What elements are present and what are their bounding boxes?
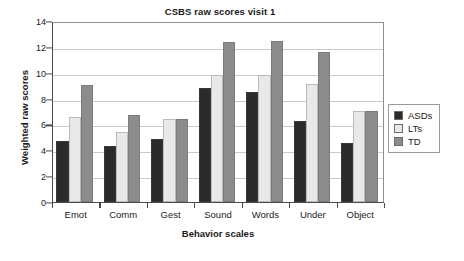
bar-td-emot [81, 85, 93, 202]
legend-label-asds: ASDs [408, 110, 432, 121]
bar-td-gest [176, 119, 188, 202]
bar-group [294, 23, 331, 202]
y-tick-label: 6 [22, 120, 46, 130]
x-tick-mark [99, 203, 100, 208]
x-axis-title: Behavior scales [52, 228, 384, 239]
bar-lts-emot [69, 117, 81, 202]
bar-td-sound [223, 42, 235, 202]
x-tick-mark [337, 203, 338, 208]
bar-group [341, 23, 378, 202]
bar-asds-words [246, 92, 258, 202]
bar-group [104, 23, 141, 202]
bar-asds-gest [151, 139, 163, 202]
bar-td-object [365, 111, 377, 202]
legend-swatch-asds [394, 111, 403, 120]
bar-lts-comm [116, 132, 128, 202]
bar-group [246, 23, 283, 202]
bar-asds-object [341, 143, 353, 202]
y-tick-label: 0 [22, 198, 46, 208]
y-tick-mark [46, 99, 52, 100]
bar-lts-sound [211, 75, 223, 202]
bar-group [151, 23, 188, 202]
bar-asds-comm [104, 146, 116, 202]
x-tick-mark [242, 203, 243, 208]
y-tick-label: 10 [22, 69, 46, 79]
x-tick-mark [384, 203, 385, 208]
bar-asds-under [294, 121, 306, 202]
x-tick-mark [147, 203, 148, 208]
bar-group [199, 23, 236, 202]
legend-swatch-td [394, 137, 403, 146]
bar-td-under [318, 52, 330, 202]
chart-legend: ASDsLTsTD [388, 104, 440, 153]
x-tick-mark [194, 203, 195, 208]
chart-title: CSBS raw scores visit 1 [55, 6, 385, 17]
x-tick-mark [289, 203, 290, 208]
bar-group [56, 23, 93, 202]
bar-asds-emot [56, 141, 68, 202]
bar-td-words [271, 41, 283, 202]
legend-label-td: TD [408, 136, 421, 147]
y-tick-mark [46, 125, 52, 126]
bar-td-comm [128, 115, 140, 202]
bar-lts-words [258, 75, 270, 202]
bar-asds-sound [199, 88, 211, 202]
y-tick-label: 2 [22, 172, 46, 182]
legend-label-lts: LTs [408, 123, 422, 134]
y-tick-mark [46, 151, 52, 152]
y-tick-label: 4 [22, 146, 46, 156]
plot-area [52, 22, 384, 203]
x-tick-label-object: Object [330, 209, 390, 220]
y-tick-label: 12 [22, 43, 46, 53]
legend-item-lts: LTs [394, 122, 432, 135]
legend-item-td: TD [394, 135, 432, 148]
y-tick-label: 14 [22, 17, 46, 27]
y-tick-mark [46, 47, 52, 48]
y-tick-mark [46, 73, 52, 74]
x-tick-mark [52, 203, 53, 208]
bar-lts-object [353, 111, 365, 202]
legend-swatch-lts [394, 124, 403, 133]
bar-lts-under [306, 84, 318, 202]
y-tick-mark [46, 21, 52, 22]
y-tick-mark [46, 177, 52, 178]
legend-item-asds: ASDs [394, 109, 432, 122]
chart-figure: CSBS raw scores visit 1 Weighted raw sco… [0, 0, 464, 261]
bar-lts-gest [163, 119, 175, 202]
y-tick-label: 8 [22, 95, 46, 105]
